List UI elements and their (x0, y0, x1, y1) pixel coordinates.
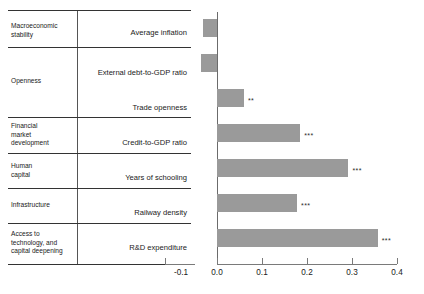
x-tick-label-0-0: 0.0 (202, 268, 232, 278)
x-tick-label-0-1: 0.1 (247, 268, 277, 278)
x-tick-0-2 (307, 258, 308, 264)
bar-r-d-expenditure (217, 229, 378, 247)
indicator-label-railway-density: Railway density (80, 208, 189, 217)
group-label-access-to-technology: Access to technology, and capital deepen… (11, 230, 77, 256)
indicator-label-years-of-schooling: Years of schooling (80, 173, 189, 182)
x-tick-0-0 (217, 258, 218, 264)
group-label-infrastructure: Infrastructure (11, 201, 77, 210)
bar-chart-plot: ************** 0.00.10.20.30.4 (196, 0, 424, 294)
table-rule-bottom (8, 264, 191, 265)
table-rule-5 (8, 223, 191, 224)
x-tick-0-4 (397, 258, 398, 264)
table-rule-2 (8, 117, 191, 118)
table-rule-4 (8, 188, 191, 189)
bar-external-debt-to-gdp-ratio (201, 54, 217, 72)
bar-trade-openness (217, 89, 244, 107)
x-axis-negative-stub (165, 264, 195, 265)
significance-marker: *** (304, 132, 313, 139)
group-label-line: Macroeconomic (11, 22, 77, 31)
x-tick-label-0-4: 0.4 (382, 268, 412, 278)
indicator-label-rd-expenditure: R&D expenditure (80, 243, 189, 252)
indicator-label-trade-openness: Trade openness (80, 103, 189, 112)
group-label-line: Infrastructure (11, 201, 77, 210)
group-label-line: market (11, 131, 77, 140)
table-rule-1 (8, 47, 191, 48)
group-label-line: capital (11, 171, 77, 180)
significance-marker: ** (248, 97, 254, 104)
x-tick-0-3 (352, 258, 353, 264)
indicator-label-credit-to-gdp-ratio: Credit-to-GDP ratio (80, 138, 189, 147)
significance-marker: *** (382, 237, 391, 244)
indicator-table: Macroeconomic stability Openness Financi… (8, 10, 191, 264)
bar-average-inflation (203, 19, 217, 37)
group-label-macroeconomic-stability: Macroeconomic stability (11, 22, 77, 39)
group-label-line: technology, and (11, 239, 77, 248)
table-vertical-divider (77, 10, 78, 264)
group-label-line: Access to (11, 230, 77, 239)
x-tick-label-0-2: 0.2 (292, 268, 322, 278)
significance-marker: *** (352, 167, 361, 174)
group-label-openness: Openness (11, 77, 77, 86)
group-label-financial-market-development: Financial market development (11, 122, 77, 148)
x-axis-line (217, 264, 397, 265)
bar-years-of-schooling (217, 159, 348, 177)
figure-root: Macroeconomic stability Openness Financi… (0, 0, 424, 294)
x-tick-label-neg-0-1: -0.1 (166, 268, 196, 278)
group-label-line: Openness (11, 77, 77, 86)
group-label-line: development (11, 139, 77, 148)
group-label-line: Financial (11, 122, 77, 131)
indicator-label-average-inflation: Average inflation (80, 28, 189, 37)
group-label-line: stability (11, 31, 77, 40)
group-label-human-capital: Human capital (11, 162, 77, 179)
bar-railway-density (217, 194, 297, 212)
x-tick-0-1 (262, 258, 263, 264)
group-label-line: capital deepening (11, 247, 77, 256)
bar-credit-to-gdp-ratio (217, 124, 300, 142)
x-tick-label-0-3: 0.3 (337, 268, 367, 278)
table-rule-top (8, 10, 191, 11)
significance-marker: *** (301, 202, 310, 209)
indicator-label-external-debt-to-gdp-ratio: External debt-to-GDP ratio (80, 68, 189, 77)
x-tick-neg-0-1 (165, 258, 166, 264)
group-label-line: Human (11, 162, 77, 171)
table-rule-3 (8, 153, 191, 154)
